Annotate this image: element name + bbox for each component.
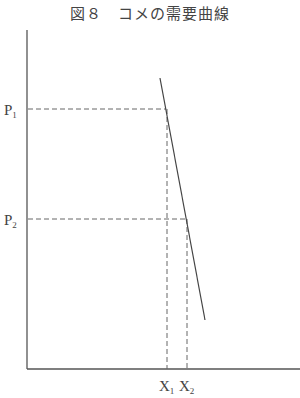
p2-label: P2 <box>4 212 17 230</box>
p1-label: P1 <box>4 102 17 120</box>
x1-label: X1 <box>159 378 174 396</box>
demand-chart: P1 P2 X1 X2 <box>0 0 300 398</box>
x2-label: X2 <box>179 378 194 396</box>
